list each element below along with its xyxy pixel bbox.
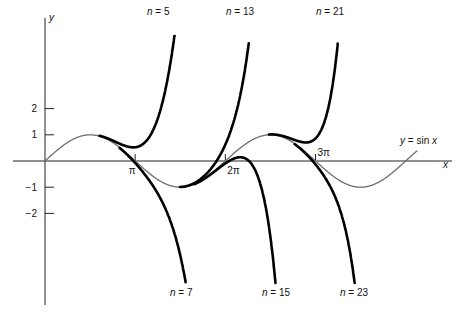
y-tick-label: 1	[31, 129, 37, 140]
taylor-curve-n15	[194, 157, 275, 283]
y-tick-label: −2	[26, 208, 38, 219]
curve-label: n = 21	[316, 6, 345, 17]
taylor-curve-n21	[269, 44, 338, 143]
x-tick-label: 2π	[227, 165, 240, 176]
curve-label: n = 7	[170, 287, 193, 298]
curve-label: n = 23	[340, 287, 369, 298]
curves	[45, 36, 417, 283]
curve-label: y = sin x	[399, 135, 438, 146]
curve-label: n = 5	[147, 6, 170, 17]
curve-label: n = 13	[226, 6, 255, 17]
x-axis-label: x	[442, 159, 449, 170]
y-tick-label: −1	[26, 182, 38, 193]
x-tick-label: 3π	[317, 147, 330, 158]
curve-labels: n = 5n = 13n = 21n = 7n = 15n = 23y = si…	[147, 6, 438, 298]
curve-label: n = 15	[262, 287, 291, 298]
taylor-series-chart: y x 21−1−2π2π3π n = 5n = 13n = 21n = 7n …	[0, 0, 464, 313]
x-tick-label: π	[129, 165, 136, 176]
taylor-curve-n5	[100, 36, 175, 147]
y-axis-label: y	[48, 12, 55, 23]
taylor-curve-n23	[295, 144, 355, 283]
y-tick-label: 2	[31, 103, 37, 114]
